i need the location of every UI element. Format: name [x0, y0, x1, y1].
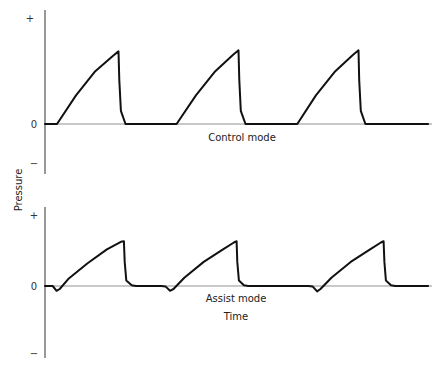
control-mode-caption: Control mode: [208, 132, 276, 143]
y-tick-minus-control: −: [30, 158, 38, 169]
y-tick-plus-assist: +: [30, 210, 38, 221]
x-axis-label: Time: [223, 311, 248, 322]
assist-mode-caption: Assist mode: [206, 293, 267, 304]
y-axis-label: Pressure: [13, 169, 24, 212]
y-tick-plus-control: +: [26, 13, 34, 24]
pressure-waveform-chart: + 0 − Control mode Pressure + 0 − Assist…: [0, 0, 445, 370]
assist-mode-waveform: [45, 241, 428, 291]
y-tick-minus-assist: −: [30, 348, 38, 359]
control-mode-waveform: [45, 50, 428, 124]
y-tick-zero-assist: 0: [31, 281, 37, 292]
control-mode-panel: + 0 − Control mode: [26, 10, 432, 174]
y-tick-zero-control: 0: [31, 119, 37, 130]
assist-mode-panel: + 0 − Assist mode Time: [30, 207, 432, 359]
